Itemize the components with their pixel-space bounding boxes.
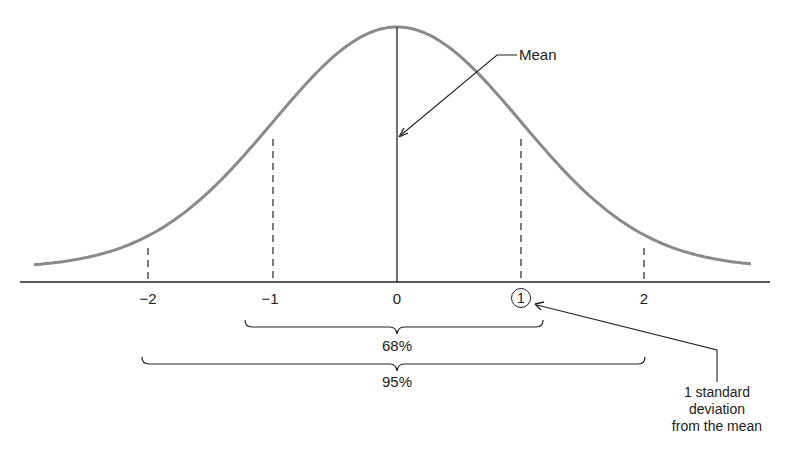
tick-label-0: 0 [393,290,401,307]
brace-95 [142,357,645,371]
percent-95-label: 95% [382,373,412,390]
sd-note-line2: from the mean [670,418,765,435]
sd-leader-line [537,305,717,382]
normal-curve [34,27,751,265]
sd-note-line1: 1 standard deviation [670,384,765,418]
percent-68-label: 68% [382,337,412,354]
sd-note: 1 standard deviation from the mean [670,384,765,435]
tick-label-2: 2 [640,290,648,307]
brace-68 [245,320,543,334]
tick-label-minus1: −1 [261,290,278,307]
tick-label-minus2: −2 [139,290,156,307]
tick-label-1-circled: 1 [511,288,531,308]
mean-label: Mean [519,46,557,63]
